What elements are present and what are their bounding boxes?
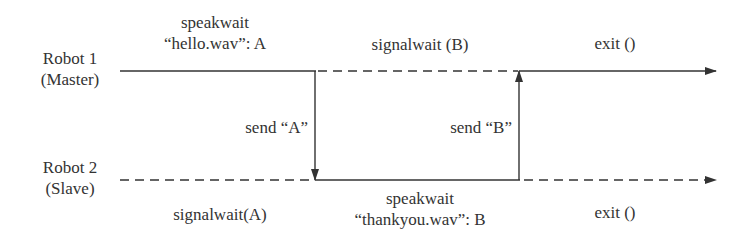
- send-a-label: send “A”: [222, 117, 308, 138]
- robot2-signalwait-label: signalwait(A): [160, 204, 280, 225]
- signalwait-a-text: signalwait(A): [160, 204, 280, 225]
- robot2-label: Robot 2 (Slave): [28, 157, 112, 199]
- robot2-name: Robot 2: [28, 157, 112, 178]
- robot1-signalwait-label: signalwait (B): [360, 34, 480, 55]
- send-b-label: send “B”: [426, 117, 512, 138]
- signalwait-b-text: signalwait (B): [360, 34, 480, 55]
- hello-wav-text: “hello.wav”: A: [150, 33, 280, 54]
- robot1-name: Robot 1: [28, 48, 112, 69]
- thankyou-wav-text: “thankyou.wav”: B: [340, 209, 500, 230]
- send-a-text: send “A”: [222, 117, 308, 138]
- exit-text: exit (): [585, 202, 645, 223]
- speakwait-text: speakwait: [340, 188, 500, 209]
- robot1-speakwait-label: speakwait “hello.wav”: A: [150, 12, 280, 54]
- robot2-role: (Slave): [28, 178, 112, 199]
- robot2-speakwait-label: speakwait “thankyou.wav”: B: [340, 188, 500, 230]
- send-b-text: send “B”: [426, 117, 512, 138]
- robot1-label: Robot 1 (Master): [28, 48, 112, 90]
- robot1-exit-label: exit (): [585, 33, 645, 54]
- robot1-role: (Master): [28, 69, 112, 90]
- speakwait-text: speakwait: [150, 12, 280, 33]
- robot2-exit-label: exit (): [585, 202, 645, 223]
- exit-text: exit (): [585, 33, 645, 54]
